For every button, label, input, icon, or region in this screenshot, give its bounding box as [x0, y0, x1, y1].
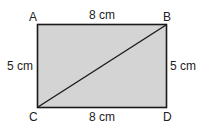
side-label-top: 8 cm — [89, 9, 115, 21]
side-label-right: 5 cm — [170, 60, 196, 72]
vertex-label-d: D — [163, 111, 172, 123]
vertex-label-a: A — [29, 11, 37, 23]
side-label-left: 5 cm — [7, 60, 33, 72]
vertex-label-c: C — [29, 111, 38, 123]
side-label-bottom: 8 cm — [89, 111, 115, 123]
vertex-label-b: B — [163, 11, 171, 23]
